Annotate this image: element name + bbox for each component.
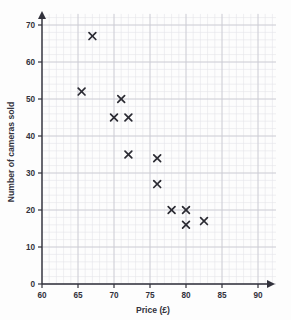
x-tick-label: 80 bbox=[181, 291, 191, 300]
x-tick-label: 90 bbox=[253, 291, 263, 300]
x-tick-label: 65 bbox=[73, 291, 83, 300]
y-axis-title: Number of cameras sold bbox=[6, 102, 16, 202]
y-tick-label: 20 bbox=[26, 206, 36, 215]
y-tick-label: 30 bbox=[26, 169, 36, 178]
y-tick-label: 10 bbox=[26, 243, 36, 252]
y-tick-label: 60 bbox=[26, 58, 36, 67]
y-tick-label: 40 bbox=[26, 132, 36, 141]
chart-background bbox=[0, 0, 291, 320]
y-tick-label: 0 bbox=[30, 280, 35, 289]
x-tick-label: 60 bbox=[37, 291, 47, 300]
plot-svg: 60657075808590 010203040506070 Price (£)… bbox=[0, 0, 291, 320]
x-tick-label: 85 bbox=[217, 291, 227, 300]
x-tick-label: 75 bbox=[145, 291, 155, 300]
scatter-chart: 60657075808590 010203040506070 Price (£)… bbox=[0, 0, 291, 320]
x-axis-title: Price (£) bbox=[136, 305, 170, 315]
y-tick-label: 50 bbox=[26, 95, 36, 104]
x-tick-label: 70 bbox=[109, 291, 119, 300]
y-tick-label: 70 bbox=[26, 21, 36, 30]
